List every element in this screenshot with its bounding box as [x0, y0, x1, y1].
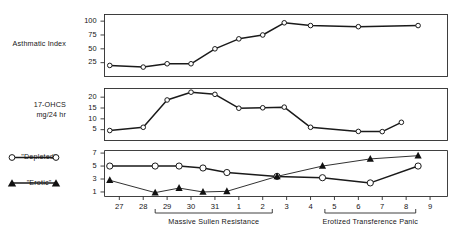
data-point-ohcs-0-5: [237, 106, 242, 111]
data-point-asthmatic-index-0-10: [416, 23, 421, 28]
data-point-ohcs-0-2: [165, 98, 170, 103]
data-point-asthmatic-index-0-4: [213, 47, 218, 52]
data-point-asthmatic-index-0-0: [107, 63, 112, 68]
x-tick-label-31: 31: [203, 202, 227, 211]
data-point-ohcs-0-8: [308, 125, 313, 130]
data-point-affect-ratings-0-4: [224, 169, 230, 175]
data-point-affect-ratings-1-8: [415, 152, 422, 159]
panel-frame-asthmatic-index: [105, 15, 448, 77]
data-point-ohcs-0-10: [380, 129, 385, 134]
series-line-asthmatic-index-0: [110, 23, 418, 67]
x-tick-label-1: 1: [227, 202, 251, 211]
data-point-affect-ratings-1-0: [106, 176, 113, 183]
data-point-asthmatic-index-0-6: [260, 33, 265, 38]
data-point-affect-ratings-0-1: [152, 163, 158, 169]
x-tick-label-7: 7: [370, 202, 394, 211]
x-tick-label-4: 4: [299, 202, 323, 211]
data-point-ohcs-0-11: [399, 120, 404, 125]
x-tick-label-9: 9: [418, 202, 442, 211]
y-tick-label-asthmatic-index-25: 25: [73, 57, 97, 66]
y-tick-label-asthmatic-index-50: 50: [73, 44, 97, 53]
data-point-affect-ratings-0-8: [415, 163, 421, 169]
data-point-ohcs-0-1: [141, 125, 146, 130]
data-point-affect-ratings-0-3: [200, 165, 206, 171]
x-tick-label-30: 30: [179, 202, 203, 211]
series-line-ohcs-0: [110, 92, 402, 131]
y-tick-label-asthmatic-index-100: 100: [73, 16, 97, 25]
x-tick-label-28: 28: [131, 202, 155, 211]
data-point-ohcs-0-3: [189, 90, 194, 95]
x-tick-label-6: 6: [346, 202, 370, 211]
y-tick-label-affect-ratings-1: 1: [73, 187, 97, 196]
data-point-affect-ratings-0-6: [319, 175, 325, 181]
data-point-asthmatic-index-0-2: [165, 61, 170, 66]
y-tick-label-ohcs-20: 20: [73, 92, 97, 101]
y-tick-label-affect-ratings-5: 5: [73, 161, 97, 170]
x-tick-label-5: 5: [322, 202, 346, 211]
y-tick-label-ohcs-15: 15: [73, 103, 97, 112]
annotation-label-massive-sullen-resistance: Massive Sullen Resistance: [124, 217, 304, 226]
y-tick-label-ohcs-10: 10: [73, 114, 97, 123]
panel-frame-ohcs: [105, 89, 448, 141]
data-point-ohcs-0-4: [213, 92, 218, 97]
data-point-affect-ratings-0-2: [176, 163, 182, 169]
data-point-affect-ratings-0-0: [107, 163, 113, 169]
y-tick-label-affect-ratings-3: 3: [73, 174, 97, 183]
data-point-asthmatic-index-0-5: [237, 37, 242, 42]
data-point-ohcs-0-9: [356, 129, 361, 134]
data-point-affect-ratings-0-7: [367, 180, 373, 186]
data-point-asthmatic-index-0-9: [356, 24, 361, 29]
data-point-asthmatic-index-0-3: [189, 61, 194, 66]
annotation-label-erotized-transference-panic: Erotized Transference Panic: [280, 217, 460, 226]
data-point-affect-ratings-1-2: [175, 184, 182, 191]
y-tick-label-affect-ratings-7: 7: [73, 148, 97, 157]
data-point-ohcs-0-6: [260, 105, 265, 110]
x-tick-label-27: 27: [107, 202, 131, 211]
data-point-asthmatic-index-0-7: [282, 21, 287, 26]
data-point-asthmatic-index-0-1: [141, 65, 146, 70]
x-tick-label-8: 8: [394, 202, 418, 211]
y-tick-label-ohcs-5: 5: [73, 124, 97, 133]
x-tick-label-3: 3: [275, 202, 299, 211]
x-tick-label-2: 2: [251, 202, 275, 211]
y-tick-label-asthmatic-index-75: 75: [73, 30, 97, 39]
data-point-ohcs-0-7: [282, 105, 287, 110]
figure-root: Asthmatic Index 17-OHCS mg/24 hr "Deplet…: [0, 0, 463, 237]
data-point-asthmatic-index-0-8: [308, 23, 313, 28]
x-tick-label-29: 29: [155, 202, 179, 211]
data-point-ohcs-0-0: [107, 128, 112, 133]
